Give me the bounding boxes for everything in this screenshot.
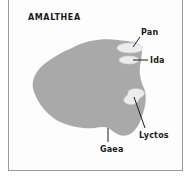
lyctos-label: Lyctos: [139, 131, 169, 140]
pan-label: Pan: [141, 28, 158, 37]
ida-label: Ida: [150, 56, 165, 65]
amalthea-body: [33, 39, 146, 135]
amalthea-diagram: [0, 0, 190, 179]
gaea-label: Gaea: [100, 145, 124, 154]
pan-crater: [117, 43, 143, 53]
